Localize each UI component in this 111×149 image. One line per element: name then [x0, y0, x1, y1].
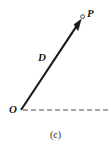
origin-label: O: [9, 104, 17, 115]
figure-caption: (c): [0, 130, 111, 140]
point-label: P: [87, 8, 94, 19]
terminal-point-marker: [81, 15, 85, 19]
vector-diagram-figure: O D P (c): [0, 0, 111, 149]
displacement-vector-shaft: [21, 24, 78, 110]
magnitude-label: D: [38, 52, 46, 63]
figure-canvas: [0, 0, 111, 149]
